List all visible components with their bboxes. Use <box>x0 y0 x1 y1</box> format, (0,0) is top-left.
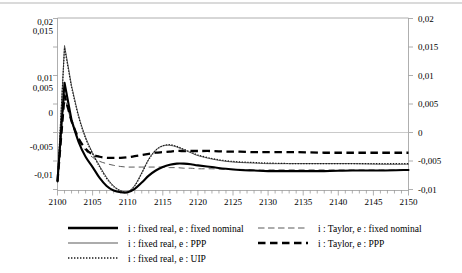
x-tick-2150: 2150 <box>400 197 419 207</box>
x-tick-2120: 2120 <box>189 197 208 207</box>
x-tick-2105: 2105 <box>84 197 103 207</box>
y-right-ticks <box>409 19 414 190</box>
y-right-tick-6: -0,01 <box>418 185 437 195</box>
y-left-tick-4: 0 <box>49 108 54 118</box>
x-tick-2125: 2125 <box>224 197 243 207</box>
chart-legend: i : fixed real, e : fixed nominal i : fi… <box>68 224 422 264</box>
legend-label-fixed-real-uip: i : fixed real, e : UIP <box>128 254 206 264</box>
chart-svg: 0,02 0,015 0,01 0,005 0 -0,005 -0,01 0,0… <box>0 0 462 273</box>
x-tick-2145: 2145 <box>364 197 383 207</box>
legend-label-taylor-ppp: i : Taylor, e : PPP <box>318 239 384 249</box>
y-right-tick-5: -0,005 <box>418 156 442 166</box>
y-right-tick-4: 0 <box>418 128 423 138</box>
y-right-tick-1: 0,015 <box>418 42 439 52</box>
legend-label-fixed-real-fixed-nominal: i : fixed real, e : fixed nominal <box>128 224 244 234</box>
y-left-tick-5: -0,005 <box>30 142 54 152</box>
legend-label-fixed-real-ppp: i : fixed real, e : PPP <box>128 239 206 249</box>
y-left-tick-2: 0,01 <box>37 73 53 83</box>
y-axis-left: 0,02 0,015 0,01 0,005 0 -0,005 -0,01 <box>30 17 54 180</box>
series-layer <box>58 46 409 193</box>
x-tick-2140: 2140 <box>329 197 348 207</box>
impulse-response-chart: 0,02 0,015 0,01 0,005 0 -0,005 -0,01 0,0… <box>0 0 462 273</box>
legend-label-taylor-fixed-nominal: i : Taylor, e : fixed nominal <box>318 224 422 234</box>
x-tick-2115: 2115 <box>154 197 172 207</box>
series-line <box>58 83 409 193</box>
x-tick-2135: 2135 <box>294 197 313 207</box>
y-right-tick-2: 0,01 <box>418 71 434 81</box>
y-left-ticks <box>53 19 58 190</box>
x-tick-2130: 2130 <box>259 197 278 207</box>
y-right-tick-0: 0,02 <box>418 14 434 24</box>
y-axis-right: 0,02 0,015 0,01 0,005 0 -0,005 -0,01 <box>418 14 442 195</box>
y-left-tick-6: -0,01 <box>34 170 53 180</box>
x-tick-2110: 2110 <box>119 197 137 207</box>
y-right-tick-3: 0,005 <box>418 99 439 109</box>
x-tick-2100: 2100 <box>49 197 68 207</box>
y-left-tick-3: 0,005 <box>33 83 54 93</box>
x-axis-labels: 2100 2105 2110 2115 2120 2125 2130 2135 … <box>49 197 419 207</box>
y-left-tick-1: 0,015 <box>33 26 54 36</box>
